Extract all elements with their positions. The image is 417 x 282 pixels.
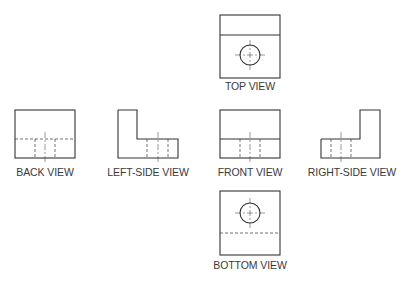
- orthographic-views-drawing: [0, 0, 417, 282]
- bottom-view-label: BOTTOM VIEW: [213, 259, 286, 271]
- front-view-label: FRONT VIEW: [218, 166, 283, 178]
- left-side-view-drawing: [118, 110, 178, 163]
- back-view-drawing: [15, 110, 75, 163]
- right-side-view-label: RIGHT-SIDE VIEW: [308, 166, 396, 178]
- back-view-label: BACK VIEW: [16, 166, 73, 178]
- top-view-drawing: [220, 15, 280, 78]
- top-view-label: TOP VIEW: [225, 80, 275, 92]
- bottom-view-drawing: [220, 191, 280, 255]
- front-view-drawing: [220, 110, 280, 163]
- left-side-view-label: LEFT-SIDE VIEW: [107, 166, 188, 178]
- right-side-view-drawing: [321, 110, 380, 163]
